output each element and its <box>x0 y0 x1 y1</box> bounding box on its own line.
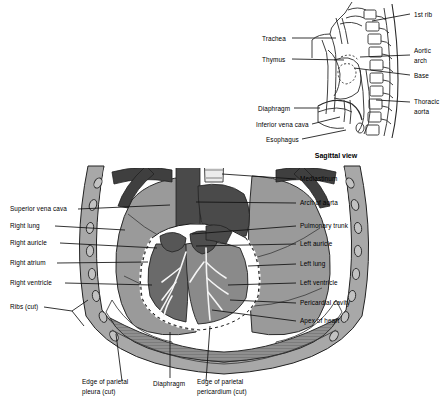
label-superior-vena-cava: Superior vena cava <box>10 205 67 213</box>
label-base: Base <box>414 72 429 79</box>
label-left-lung: Left lung <box>300 260 326 268</box>
label-diaphragm: Diaphragm <box>153 380 185 388</box>
label-pulmonary-trunk: Pulmonary trunk <box>300 222 349 230</box>
label-esophagus: Esophagus <box>266 136 299 144</box>
label-diaphragm-inset: Diaphragm <box>258 105 290 113</box>
label-trachea: Trachea <box>262 35 286 42</box>
label-thoracic-aorta-line2: aorta <box>414 108 429 115</box>
label-edge-parietal-pleura-line2: pleura (cut) <box>82 388 116 396</box>
label-ribs-cut: Ribs (cut) <box>10 303 38 311</box>
label-right-atrium: Right atrium <box>10 259 46 267</box>
label-edge-parietal-pericardium-line2: pericardium (cut) <box>197 388 247 396</box>
inset-caption: Sagittal view <box>315 152 358 160</box>
label-right-lung: Right lung <box>10 222 40 230</box>
label-apex-of-heart: Apex of heart <box>300 317 339 325</box>
label-thoracic-aorta-line1: Thoracic <box>414 98 440 105</box>
label-edge-parietal-pericardium-line1: Edge of parietal <box>197 378 243 386</box>
label-arch-of-aorta: Arch of aorta <box>300 199 338 206</box>
label-left-auricle: Left auricle <box>300 240 333 247</box>
thoracic-cavity-figure: Superior vena cava Right lung Right auri… <box>0 0 448 407</box>
label-mediastinum: Mediastinum <box>300 175 337 182</box>
label-inferior-vena-cava: Inferior vena cava <box>256 121 309 128</box>
label-left-ventricle: Left ventricle <box>300 279 338 286</box>
main-anterior-view <box>79 132 368 374</box>
label-aortic-arch-line1: Aortic <box>414 47 432 54</box>
label-edge-parietal-pleura-line1: Edge of parietal <box>82 378 128 386</box>
label-pericardial-cavity: Pericardial cavity <box>300 299 351 307</box>
label-right-auricle: Right auricle <box>10 239 47 247</box>
label-first-rib: 1st rib <box>414 11 432 18</box>
label-right-ventricle: Right ventricle <box>10 279 52 287</box>
label-thymus: Thymus <box>262 56 285 64</box>
label-aortic-arch-line2: arch <box>414 57 427 64</box>
